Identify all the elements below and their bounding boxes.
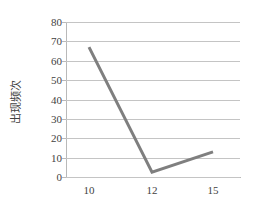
y-axis-tick-label: 50	[36, 75, 62, 86]
x-axis-tick-label: 15	[193, 185, 233, 196]
y-axis-title: 出现频次	[8, 58, 24, 146]
y-axis-tick-label: 10	[36, 153, 62, 164]
y-axis-tick-label: 60	[36, 56, 62, 67]
gridline	[66, 177, 240, 178]
y-axis-tick-label: 70	[36, 36, 62, 47]
plot-area	[66, 22, 240, 177]
y-axis-tick-label: 20	[36, 133, 62, 144]
y-axis-tick	[62, 177, 66, 178]
x-axis-tick-label: 10	[69, 185, 109, 196]
y-axis-tick-label: 30	[36, 114, 62, 125]
series-polyline	[89, 47, 213, 172]
x-axis-tick-label: 12	[132, 185, 172, 196]
y-axis-tick-label: 0	[36, 172, 62, 183]
line-chart: 出现频次 01020304050607080 101215	[0, 0, 253, 208]
y-axis-tick-label: 40	[36, 95, 62, 106]
series-line-occurrence-frequency	[66, 22, 240, 177]
y-axis-tick-label: 80	[36, 17, 62, 28]
y-axis-tick-labels: 01020304050607080	[32, 0, 62, 208]
